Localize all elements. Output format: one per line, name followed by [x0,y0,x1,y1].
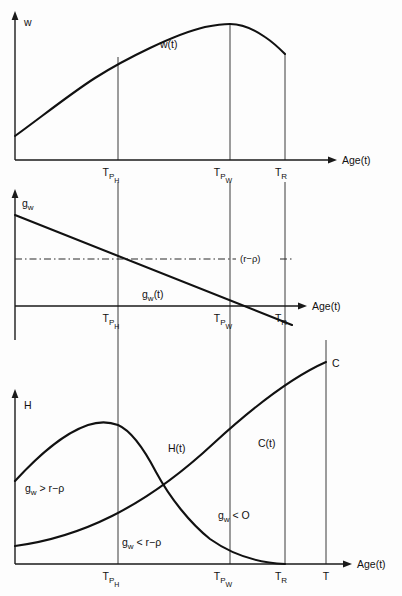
svg-text:TPW: TPW [214,166,233,184]
tick-label-tph-panel3: TPH [103,570,120,588]
svg-text:TPH: TPH [103,570,120,588]
curve-label-wage: w(t) [159,38,178,50]
tick-label-tr-panel3: TR [275,570,287,585]
svg-text:TPH: TPH [103,166,120,184]
y-axis-arrowhead-panel2 [12,189,19,198]
y-axis-label-panel3: H [24,399,32,411]
svg-text:TPW: TPW [214,570,233,588]
annotation-gw-above: gw > r−ρ [25,482,64,497]
x-axis-arrowhead-panel2 [298,303,307,310]
y-axis-label-panel2: gw [22,197,34,212]
figure-container: w Age(t) w(t) TPH TPW TR gw Age(t) [0,0,402,596]
x-axis-label-panel2: Age(t) [312,300,341,312]
y-axis-label-panel1: w [23,16,32,28]
panel-wage-growth: gw Age(t) (r−ρ) gw(t) TPH TPW TR [12,182,341,340]
tick-label-tpw-panel1: TPW [214,166,233,184]
tick-label-t-panel3: T [323,570,330,582]
y-axis-arrowhead-panel1 [12,11,19,20]
economics-lifecycle-figure: w Age(t) w(t) TPH TPW TR gw Age(t) [0,0,402,596]
x-axis-arrowhead-panel3 [343,561,352,568]
annotation-gw-negative: gw < O [218,509,250,524]
tick-label-tr-panel1: TR [275,166,287,181]
svg-text:T: T [323,570,330,582]
curve-consumption [15,362,326,546]
panel-wage: w Age(t) w(t) TPH TPW TR [12,11,371,184]
curve-wage-growth [15,215,292,325]
y-axis-arrowhead-panel3 [12,389,19,398]
panel-health-consumption: H Age(t) H(t) C(t) C gw > r−ρ gw < r−ρ g… [12,340,386,588]
endpoint-label-consumption: C [332,357,340,369]
svg-text:TR: TR [275,166,287,181]
curve-label-consumption: C(t) [258,437,276,449]
annotation-gw-below: gw < r−ρ [122,536,161,551]
svg-text:TR: TR [275,570,287,585]
tick-label-tph-panel2: TPH [103,312,120,330]
curve-label-wage-growth: gw(t) [142,288,164,303]
reference-line-label: (r−ρ) [240,253,260,264]
x-axis-arrowhead-panel1 [328,157,337,164]
tick-label-tpw-panel3: TPW [214,570,233,588]
x-axis-label-panel3: Age(t) [357,558,386,570]
curve-wage [15,24,285,136]
curve-label-health: H(t) [168,442,186,454]
tick-label-tph-panel1: TPH [103,166,120,184]
svg-text:TPH: TPH [103,312,120,330]
x-axis-label-panel1: Age(t) [342,154,371,166]
